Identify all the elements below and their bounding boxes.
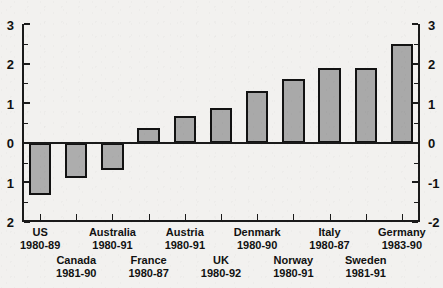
x-label-country: Sweden [321, 254, 411, 267]
y-axis-left-tick-2: 2 [7, 58, 14, 71]
bar-uk [210, 108, 232, 143]
y-axis-left-tick-1: 1 [7, 98, 14, 111]
bar-canada [65, 143, 87, 178]
y-axis-left: 3 2 1 0 1 2 [0, 24, 18, 222]
y-axis-right-tick-0: 0 [428, 137, 435, 150]
y-axis-left-tick-3: 3 [7, 19, 14, 32]
bars-layer [22, 24, 420, 222]
x-label-germany: Germany1983-90 [357, 226, 443, 252]
x-label-country: Germany [357, 226, 443, 239]
bar-chart: 3 2 1 0 1 2 3 2 1 0 -1 -2 US1980-89Canad… [0, 0, 443, 288]
bar-australia [101, 143, 123, 170]
bar-denmark [246, 91, 268, 142]
bar-germany [391, 44, 413, 143]
x-label-sweden: Sweden1981-91 [321, 254, 411, 280]
plot-area [22, 24, 420, 222]
x-label-period: 1983-90 [357, 239, 443, 252]
x-axis-category-labels: US1980-89Canada1981-90Australia1980-91Fr… [0, 226, 443, 288]
y-axis-right: 3 2 1 0 -1 -2 [425, 24, 443, 222]
bar-austria [174, 116, 196, 143]
x-label-period: 1981-91 [321, 267, 411, 280]
y-axis-left-tick-neg1: 1 [7, 177, 14, 190]
y-axis-right-tick-2: 2 [428, 58, 435, 71]
bar-italy [318, 68, 340, 143]
y-axis-right-tick-neg1: -1 [428, 177, 440, 190]
y-axis-right-tick-1: 1 [428, 98, 435, 111]
bar-us [29, 143, 51, 196]
bar-sweden [355, 68, 377, 143]
y-axis-right-tick-3: 3 [428, 19, 435, 32]
bar-france [137, 128, 159, 143]
zero-baseline [22, 142, 420, 144]
bar-norway [282, 79, 304, 142]
y-axis-left-tick-0: 0 [7, 137, 14, 150]
